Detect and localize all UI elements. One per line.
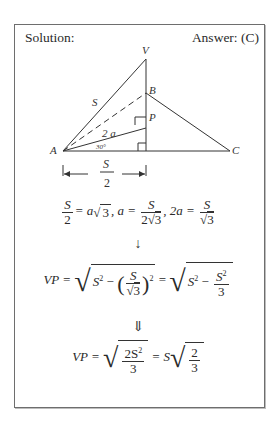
equation-line-2: VP = √S2 − (S√3)2 = √S2 − S23	[0, 262, 276, 299]
angle-label-30: 30°	[95, 143, 106, 151]
vertex-label-B: B	[149, 84, 156, 96]
vertex-label-A: A	[49, 144, 57, 156]
equation-line-3: VP = √2S23 = S√23	[0, 340, 276, 376]
down-arrow-icon: ↓	[0, 236, 276, 252]
vertex-label-P: P	[148, 111, 156, 123]
vertex-label-V: V	[142, 44, 150, 56]
segment-label-2a: 2 a	[102, 127, 116, 139]
right-angle-mark-P	[135, 117, 146, 125]
dimension-denominator: 2	[104, 176, 110, 190]
dimension-numerator: S	[103, 157, 109, 171]
vertex-label-C: C	[232, 144, 240, 156]
arrow-right-icon	[139, 171, 145, 177]
side-label-S: S	[92, 96, 98, 108]
geometry-diagram: V B P A C S 2 a 30° S 2	[0, 0, 276, 200]
edge-BC	[146, 93, 230, 151]
equation-line-1: S2= a√3, a = S2√3, 2a = S√3	[0, 198, 276, 227]
right-angle-mark-foot	[138, 143, 146, 151]
double-down-arrow-icon: ⇓	[0, 318, 276, 335]
arrow-left-icon	[64, 171, 70, 177]
